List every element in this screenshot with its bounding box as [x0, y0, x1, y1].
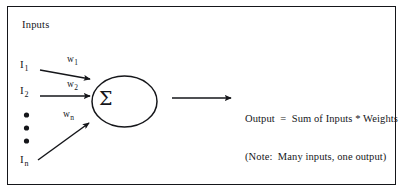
- weight-label-1: w1: [67, 55, 78, 65]
- input-label-1-subscript: 1: [24, 64, 28, 73]
- weight-label-2-subscript: 2: [74, 83, 78, 92]
- ellipsis-dot-2: [24, 125, 29, 130]
- input-connection-1: [40, 70, 90, 79]
- inputs-heading-label: Inputs: [22, 20, 49, 31]
- weight-label-2: w2: [67, 80, 78, 90]
- ellipsis-dot-3: [24, 138, 29, 143]
- output-description-block: Output = Sum of Inputs * Weights (Note: …: [245, 88, 398, 188]
- input-label-2: I2: [20, 85, 28, 96]
- weight-label-1-base: w: [67, 54, 74, 64]
- input-connection-n: [38, 123, 89, 160]
- input-label-n: In: [20, 154, 28, 165]
- input-label-2-subscript: 2: [24, 90, 28, 99]
- weight-label-n: wn: [63, 110, 74, 120]
- figure-root: Inputs I1 I2 In w1 w2 wn Σ Output = Sum …: [0, 0, 405, 194]
- weight-label-n-subscript: n: [70, 113, 74, 122]
- weight-label-2-base: w: [67, 79, 74, 89]
- input-label-n-subscript: n: [24, 159, 28, 168]
- input-label-1: I1: [20, 59, 28, 70]
- weight-label-n-base: w: [63, 109, 70, 119]
- output-note-line: (Note: Many inputs, one output): [245, 151, 398, 164]
- ellipsis-dot-1: [24, 112, 29, 117]
- output-formula-line: Output = Sum of Inputs * Weights: [245, 113, 398, 126]
- summation-sigma-symbol: Σ: [99, 89, 112, 108]
- weight-label-1-subscript: 1: [74, 58, 78, 67]
